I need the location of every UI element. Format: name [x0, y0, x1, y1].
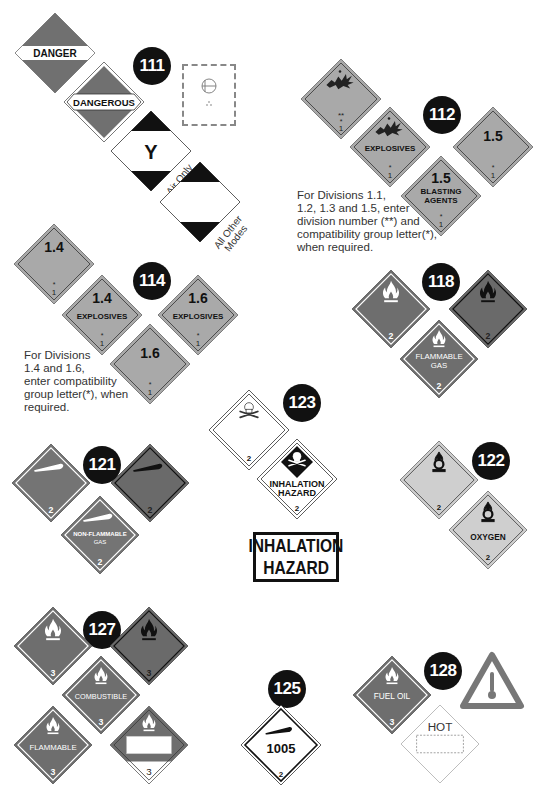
class-number: 2 — [279, 770, 284, 779]
class-number: 1 — [491, 171, 496, 180]
label-hot: HOT — [428, 720, 453, 733]
note-line: division number (**) and — [297, 215, 437, 228]
compat-placeholder: * — [149, 381, 152, 388]
label-combustible: COMBUSTIBLE — [75, 692, 127, 701]
class-number: 1 — [439, 220, 444, 229]
placard-danger-label: DANGER — [33, 48, 77, 59]
note-line: For Divisions — [24, 349, 128, 362]
placard-flammable-un-panel: 3 — [110, 706, 188, 784]
class-number: 2 — [49, 505, 54, 515]
division-number: 1.6 — [188, 290, 208, 306]
placard-elevated-temp-triangle — [460, 652, 524, 710]
label-gas: GAS — [431, 361, 447, 370]
note-line: enter compatibility — [24, 375, 128, 388]
placard-explosives-label: EXPLOSIVES — [77, 312, 128, 321]
note-line: group letter(*), when — [24, 388, 128, 401]
class-number: 2 — [98, 557, 103, 567]
guide-badge-125: 125 — [268, 670, 306, 708]
label-non-flammable: NON-FLAMMABLE — [73, 531, 127, 537]
placard-flammable-gas-label: FLAMMABLE GAS 2 — [400, 320, 478, 398]
placard-dangerous-label: DANGEROUS — [73, 97, 135, 108]
label-flammable: FLAMMABLE — [29, 743, 76, 752]
placard-un-1005: 1005 2 — [241, 705, 321, 785]
placard-flammable: FLAMMABLE 3 — [14, 706, 92, 784]
class-number: 1 — [196, 339, 201, 348]
class-number: 2 — [148, 505, 153, 515]
compat-placeholder: * — [389, 164, 392, 171]
label-hazard: HAZARD — [278, 488, 316, 498]
compat-placeholder: * — [101, 332, 104, 339]
placard-explosives-label: EXPLOSIVES — [365, 144, 416, 153]
note-line: For Divisions 1.1, — [297, 189, 437, 202]
class-number: 2 — [295, 504, 300, 513]
cargo-letter: Y — [144, 141, 158, 163]
class-number: 2 — [437, 381, 442, 391]
class-number: 2 — [247, 454, 252, 463]
placard-hot: HOT — [401, 705, 479, 783]
note-line: compatibility group letter(*), — [297, 228, 437, 241]
division-number: 1.5 — [483, 128, 503, 144]
class-number: 2 — [486, 331, 491, 341]
class-number: 1 — [148, 388, 153, 397]
class-number: 3 — [51, 668, 56, 678]
division-number: 1.6 — [140, 345, 160, 361]
division-number: 1.5 — [431, 170, 451, 186]
note-line: 1.2, 1.3 and 1.5, enter — [297, 202, 437, 215]
class-number: 3 — [147, 668, 152, 678]
sign-line-inhalation: INHALATION — [249, 535, 344, 557]
inhalation-hazard-sign: INHALATION HAZARD — [253, 532, 339, 582]
compat-placeholder: * — [440, 213, 443, 220]
placard-explosives-label: EXPLOSIVES — [173, 312, 224, 321]
label-flammable: FLAMMABLE — [415, 352, 462, 361]
un-number: 1005 — [267, 741, 296, 756]
class-number: 3 — [390, 717, 395, 727]
class-number: 2 — [437, 503, 442, 512]
class-number: 2 — [486, 553, 491, 562]
compat-placeholder: * — [492, 164, 495, 171]
class-number: 3 — [99, 717, 104, 727]
note-line: 1.4 and 1.6, — [24, 362, 128, 375]
compat-placeholder: * — [197, 332, 200, 339]
division-number: 1.4 — [92, 290, 112, 306]
class-number: 2 — [389, 331, 394, 341]
sign-line-hazard: HAZARD — [263, 557, 329, 579]
placard-inhalation-hazard: INHALATION HAZARD 2 — [257, 439, 337, 519]
class-number: 3 — [146, 766, 151, 777]
class-number: 1 — [52, 288, 57, 297]
class-number: 1 — [388, 171, 393, 180]
label-oxygen: OXYGEN — [470, 533, 505, 542]
note-line: when required. — [297, 241, 437, 254]
note-line: required. — [24, 401, 128, 414]
note-112: For Divisions 1.1, 1.2, 1.3 and 1.5, ent… — [297, 189, 437, 254]
class-number: 1 — [100, 339, 105, 348]
compat-placeholder: * — [53, 281, 56, 288]
radioactive-label-icon — [184, 66, 234, 124]
class-number: 1 — [339, 124, 344, 133]
placard-nonflammable-gas-label: NON-FLAMMABLE GAS 2 — [61, 496, 139, 574]
label-gas: GAS — [94, 539, 107, 545]
label-fuel-oil: FUEL OIL — [374, 692, 411, 701]
division-number: 1.4 — [44, 239, 64, 255]
class-number: 3 — [51, 767, 56, 777]
placard-oxygen: OXYGEN 2 — [449, 491, 527, 569]
note-114: For Divisions 1.4 and 1.6, enter compati… — [24, 349, 128, 414]
radioactive-label — [182, 64, 236, 126]
